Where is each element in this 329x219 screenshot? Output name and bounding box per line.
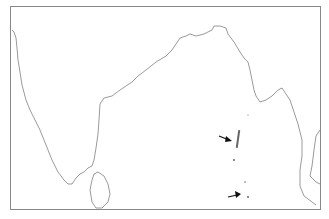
arrow-nicobar-icon bbox=[228, 191, 241, 198]
sri-lanka-outline bbox=[90, 172, 110, 208]
map-outline bbox=[0, 0, 329, 219]
arrow-andaman-icon bbox=[219, 136, 232, 142]
india-coastline bbox=[12, 26, 316, 205]
myanmar-coastline bbox=[310, 130, 320, 184]
andaman-nicobar-islands bbox=[233, 114, 249, 198]
